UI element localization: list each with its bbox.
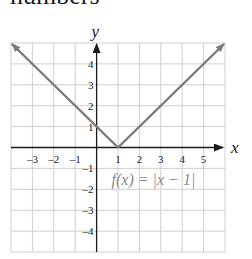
x-tick-label: 1 [115, 153, 121, 165]
x-tick-label: 4 [179, 153, 185, 165]
y-tick-label: –4 [82, 225, 95, 237]
x-tick-label: –1 [69, 153, 81, 165]
x-tick-label: 2 [137, 153, 143, 165]
x-tick-label: –2 [47, 153, 59, 165]
x-tick-label: –3 [26, 153, 39, 165]
y-tick-label: 3 [88, 79, 94, 91]
function-label: f(x) = |x − 1| [112, 171, 196, 189]
y-tick-label: –3 [82, 204, 95, 216]
y-tick-label: –1 [82, 162, 94, 174]
graph-abs-value: xy–3–2–1123454321–1–2–3–4f(x) = |x − 1| [0, 0, 252, 259]
function-line-right [118, 44, 224, 148]
y-tick-label: –2 [82, 183, 94, 195]
y-axis-label: y [90, 22, 100, 41]
x-axis-label: x [230, 138, 239, 157]
y-tick-label: 2 [88, 100, 94, 112]
x-tick-label: 3 [158, 153, 164, 165]
function-line-left [12, 44, 118, 148]
y-tick-label: 4 [88, 58, 94, 70]
x-tick-label: 5 [201, 153, 207, 165]
